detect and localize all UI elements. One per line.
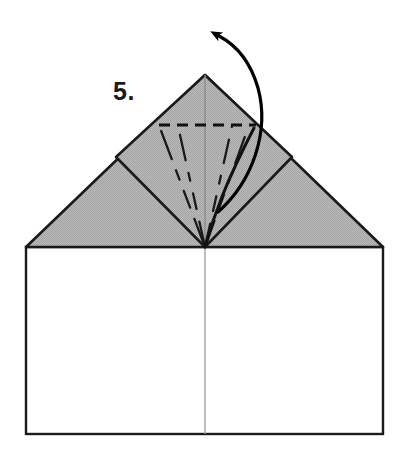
origami-illustration: 5. bbox=[0, 0, 409, 465]
step-number-label: 5. bbox=[113, 77, 135, 105]
lower-paper-panel bbox=[26, 247, 383, 434]
origami-diagram-figure: 5. bbox=[0, 0, 409, 465]
